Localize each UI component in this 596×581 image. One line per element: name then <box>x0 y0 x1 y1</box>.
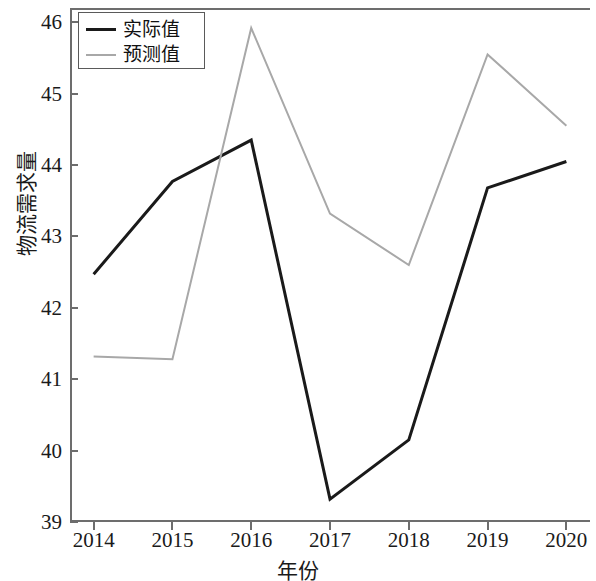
series-line-predicted <box>94 28 567 359</box>
y-tick-mark <box>70 235 78 237</box>
x-tick-mark <box>329 522 331 530</box>
series-lines-layer <box>0 0 596 581</box>
x-tick-mark <box>408 522 410 530</box>
legend: 实际值 预测值 <box>78 12 205 69</box>
y-axis-title: 物流需求量 <box>10 118 40 288</box>
logistics-demand-line-chart: 3940414243444546 20142015201620172018201… <box>0 0 596 581</box>
x-tick-label: 2017 <box>295 528 365 553</box>
y-tick-mark <box>70 93 78 95</box>
y-tick-mark <box>70 21 78 23</box>
x-tick-label: 2015 <box>137 528 207 553</box>
legend-swatch-predicted <box>86 54 116 56</box>
x-tick-mark <box>487 522 489 530</box>
x-tick-label: 2016 <box>216 528 286 553</box>
y-tick-label: 45 <box>28 81 62 106</box>
y-tick-label: 42 <box>28 295 62 320</box>
legend-label-predicted: 预测值 <box>123 45 180 64</box>
x-tick-label: 2018 <box>374 528 444 553</box>
x-tick-mark <box>171 522 173 530</box>
x-tick-label: 2019 <box>453 528 523 553</box>
y-tick-mark <box>70 164 78 166</box>
x-tick-label: 2020 <box>531 528 596 553</box>
y-tick-label: 46 <box>28 10 62 35</box>
legend-item-actual: 实际值 <box>86 17 198 42</box>
y-tick-label: 39 <box>28 510 62 535</box>
y-tick-mark <box>70 378 78 380</box>
x-tick-mark <box>250 522 252 530</box>
y-tick-mark <box>70 521 78 523</box>
x-tick-mark <box>565 522 567 530</box>
x-tick-label: 2014 <box>59 528 129 553</box>
y-tick-label: 40 <box>28 438 62 463</box>
x-tick-mark <box>93 522 95 530</box>
y-tick-mark <box>70 450 78 452</box>
legend-item-predicted: 预测值 <box>86 42 198 67</box>
legend-label-actual: 实际值 <box>123 20 180 39</box>
series-line-actual <box>94 140 567 499</box>
legend-swatch-actual <box>86 28 116 31</box>
y-tick-mark <box>70 307 78 309</box>
x-axis-title: 年份 <box>0 554 596 581</box>
y-tick-label: 41 <box>28 367 62 392</box>
